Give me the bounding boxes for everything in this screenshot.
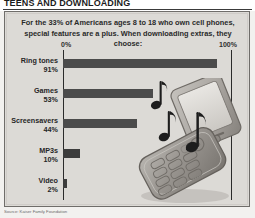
- bar-row: Video 2%: [5, 176, 249, 206]
- title-divider: [3, 9, 252, 10]
- bar-label: MP3s: [4, 146, 58, 155]
- bar-fill: [63, 119, 137, 128]
- bar-label: Video: [4, 176, 58, 185]
- bar-fill: [63, 179, 67, 188]
- source-note: Source: Kaiser Family Foundation: [4, 209, 204, 214]
- bar-fill: [63, 89, 153, 98]
- chart-panel: For the 33% of Americans ages 8 to 18 wh…: [4, 11, 250, 207]
- bar-label: Games: [4, 86, 58, 95]
- axis-tick-label-0: 0%: [61, 41, 71, 48]
- bar-label: Ring tones: [4, 56, 58, 65]
- bar-value-label: 2%: [4, 185, 58, 194]
- bar-label: Screensavers: [4, 116, 58, 125]
- bar-row: Ring tones 91%: [5, 56, 249, 86]
- chart-plot-area: 0% 100% Ring tones 91% Games 53%: [5, 41, 249, 206]
- bar-value-label: 91%: [4, 65, 58, 74]
- bar-row: Screensavers 44%: [5, 116, 249, 146]
- bar-fill: [63, 59, 217, 68]
- bar-group: Ring tones 91% Games 53% Screensavers 44…: [5, 50, 249, 202]
- bar-value-label: 10%: [4, 155, 58, 164]
- infographic-root: TEENS AND DOWNLOADING For the 33% of Ame…: [0, 0, 255, 218]
- axis-tick-label-100: 100%: [219, 41, 237, 48]
- bar-value-label: 44%: [4, 125, 58, 134]
- bar-row: Games 53%: [5, 86, 249, 116]
- bar-fill: [63, 149, 80, 158]
- bar-value-label: 53%: [4, 95, 58, 104]
- bar-row: MP3s 10%: [5, 146, 249, 176]
- page-title: TEENS AND DOWNLOADING: [4, 0, 130, 8]
